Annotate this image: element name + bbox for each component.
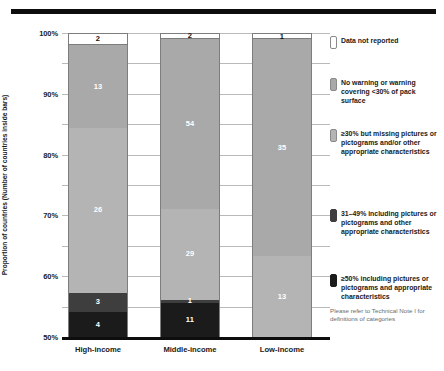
bar-segment: 2 [69,33,127,46]
legend-label: 31–49% including pictures or pictograms … [341,209,438,237]
bar-segment-value: 29 [186,250,195,258]
bar-segment: 54 [161,39,219,208]
bar-segment-value: 11 [186,316,194,324]
gridline: 0% [62,337,330,340]
legend-swatch-icon [330,209,337,222]
bar-segment-value: 13 [278,293,287,301]
stacked-bar: 13513 [252,33,312,337]
category-label-middle-income: Middle-income [148,345,232,354]
y-axis-tick-label: 60% [43,272,58,281]
bar-segment-value: 26 [94,206,103,214]
legend-label: Data not reported [341,36,398,49]
legend-item[interactable]: 31–49% including pictures or pictograms … [330,209,438,237]
bar-segment: 13 [253,256,311,337]
chart-figure: Proportion of countries (Number of count… [0,0,444,371]
legend-label: No warning or warning covering <30% of p… [341,78,438,106]
bar-segment-value: 54 [186,120,195,128]
bar-segment-value: 3 [96,298,100,306]
y-axis-tick-label: 90% [43,89,58,98]
legend-item[interactable]: Data not reported [330,36,438,49]
bar-segment: 29 [161,209,219,300]
bar-segment-value: 13 [94,83,103,91]
y-axis-tick-label: 70% [43,211,58,220]
legend-footnote: Please refer to Technical Note I for def… [330,307,440,323]
bar-segment-value: 35 [278,144,287,152]
legend-label: ≥50% including pictures or pictograms an… [341,274,438,302]
bar-segment-value: 2 [96,35,100,43]
y-axis-tick-label: 50% [43,333,58,342]
y-axis-tick-label: 80% [43,150,58,159]
stacked-bar: 2132634 [68,33,128,337]
y-axis-tick-label: 100% [39,29,58,38]
stacked-bar: 25429111 [160,33,220,337]
bar-segment: 13 [69,45,127,127]
category-label-high-income: High-income [56,345,140,354]
legend-item[interactable]: ≥30% but missing pictures or pictograms … [330,129,438,157]
legend-swatch-icon [330,274,337,287]
legend-swatch-icon [330,36,337,49]
bar-segment: 11 [161,303,219,337]
plot-area: 100%90%80%70%60%50%40%30%20%10%0% 213263… [62,33,330,337]
bar-segment-value: 4 [96,321,100,329]
legend-label: ≥30% but missing pictures or pictograms … [341,129,438,157]
category-label-low-income: Low-income [240,345,324,354]
legend-item[interactable]: ≥50% including pictures or pictograms an… [330,274,438,302]
legend-swatch-icon [330,78,337,91]
bar-segment: 26 [69,128,127,293]
header-rule [11,9,436,14]
legend-swatch-icon [330,129,337,142]
legend-item[interactable]: No warning or warning covering <30% of p… [330,78,438,106]
y-axis-title: Proportion of countries (Number of count… [0,33,11,337]
bar-segment: 35 [253,39,311,256]
bar-segment: 4 [69,312,127,337]
bar-segment: 3 [69,293,127,312]
